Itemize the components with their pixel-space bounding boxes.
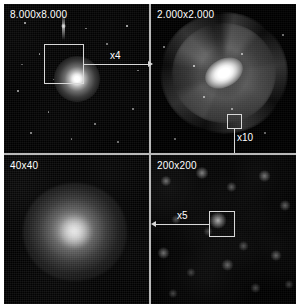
panel-spiral-galaxy[interactable]: 2.000x2.000 x10 bbox=[151, 4, 296, 153]
zoom-box-x4[interactable] bbox=[44, 44, 84, 84]
zoom-factor-label-x10: x10 bbox=[237, 132, 253, 143]
zoom-arrow-x10 bbox=[234, 129, 235, 153]
panel-nucleus-blob[interactable]: 40x40 bbox=[4, 155, 149, 304]
panel-wide-field[interactable]: 8.000x8.000 bbox=[4, 4, 149, 153]
panel-faint-field[interactable]: 200x200 x5 bbox=[151, 155, 296, 304]
panel-label-faint-field: 200x200 bbox=[157, 160, 197, 172]
zoom-arrow-head-x5 bbox=[151, 221, 156, 227]
field-star bbox=[163, 46, 165, 48]
sky-background bbox=[4, 155, 149, 304]
field-star bbox=[21, 64, 23, 66]
panel-label-spiral-galaxy: 2.000x2.000 bbox=[157, 9, 214, 21]
field-star bbox=[137, 70, 139, 72]
sky-background bbox=[151, 4, 296, 153]
field-star bbox=[106, 43, 108, 45]
field-star bbox=[48, 111, 50, 113]
field-star bbox=[117, 141, 119, 143]
panel-label-nucleus-blob: 40x40 bbox=[10, 160, 38, 172]
background-gradient-texture bbox=[4, 155, 149, 304]
zoom-mosaic-figure: 8.000x8.000 2.000x2.000 x10 bbox=[4, 4, 296, 304]
field-star bbox=[282, 34, 284, 36]
panel-label-wide-field: 8.000x8.000 bbox=[10, 9, 67, 21]
zoom-box-x5[interactable] bbox=[209, 211, 235, 237]
zoom-factor-label-x5: x5 bbox=[177, 210, 188, 221]
zoom-box-x10[interactable] bbox=[227, 114, 242, 129]
field-star bbox=[71, 138, 73, 140]
zoom-arrow-x5 bbox=[156, 224, 209, 225]
